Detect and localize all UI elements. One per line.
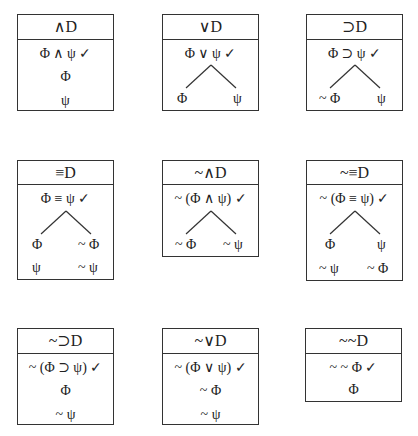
left-branch-line: Φ [32, 237, 42, 253]
right-branch: ψ [377, 91, 386, 107]
left-branch: Φ [177, 91, 187, 107]
conclusion-line: ψ [18, 93, 113, 109]
rule-and-decomposition: ∧D Φ ∧ ψ ✓ Φ ψ [17, 14, 114, 111]
right-branch-line: ~ Φ [367, 261, 388, 277]
rule-title: ∧D [18, 15, 113, 40]
left-branch: ~ Φ [319, 91, 340, 107]
premise: ~ (Φ ⊃ ψ) ✓ [18, 359, 113, 376]
rule-negated-conditional-decomposition: ~⊃D ~ (Φ ⊃ ψ) ✓ Φ ~ ψ [17, 328, 114, 425]
left-branch-line: Φ [325, 237, 335, 253]
right-branch-line: ψ [377, 237, 386, 253]
rule-title: ~⊃D [18, 329, 113, 354]
rule-negated-and-decomposition: ~∧D ~ (Φ ∧ ψ) ✓ ~ Φ ~ ψ [162, 160, 259, 257]
conclusion-line: ~ ψ [163, 407, 258, 423]
left-branch-line: ~ ψ [319, 261, 339, 277]
premise: ~ ~ Φ ✓ [306, 359, 401, 376]
left-branch-line: ψ [32, 260, 41, 276]
right-branch: ~ ψ [223, 237, 243, 253]
rule-conditional-decomposition: ⊃D Φ ⊃ ψ ✓ ~ Φ ψ [306, 14, 403, 111]
conclusion-line: ~ ψ [18, 407, 113, 423]
conclusion-line: ~ Φ [163, 383, 258, 399]
right-branch-line: ~ Φ [78, 237, 99, 253]
conclusion-line: Φ [306, 382, 401, 398]
right-branch-line: ~ ψ [78, 260, 98, 276]
right-branch: ψ [233, 91, 242, 107]
left-branch: ~ Φ [175, 237, 196, 253]
premise: ~ (Φ ∨ ψ) ✓ [163, 359, 258, 376]
rule-negated-biconditional-decomposition: ~≡D ~ (Φ ≡ ψ) ✓ Φ ~ ψ ψ ~ Φ [306, 160, 403, 281]
rule-double-negation-decomposition: ~~D ~ ~ Φ ✓ Φ [305, 328, 402, 402]
rule-title: ~~D [306, 329, 401, 354]
rule-title: ~∨D [163, 329, 258, 354]
rule-biconditional-decomposition: ≡D Φ ≡ ψ ✓ Φ ψ ~ Φ ~ ψ [17, 160, 114, 280]
rule-or-decomposition: ∨D Φ ∨ ψ ✓ Φ ψ [162, 14, 259, 111]
rule-negated-or-decomposition: ~∨D ~ (Φ ∨ ψ) ✓ ~ Φ ~ ψ [162, 328, 259, 425]
conclusion-line: Φ [18, 69, 113, 85]
premise: Φ ∧ ψ ✓ [18, 45, 113, 62]
conclusion-line: Φ [18, 383, 113, 399]
